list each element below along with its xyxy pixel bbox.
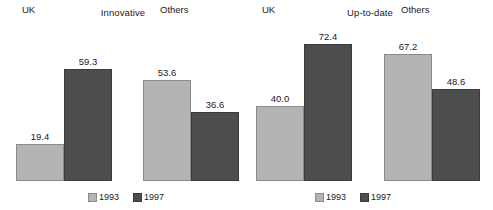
legend-swatch-1997-icon (360, 193, 369, 202)
bar-1993-others-up-to-date[interactable]: 67.2 (384, 54, 432, 181)
panel-title-up-to-date: Up-to-date (247, 7, 493, 18)
chart-panel-up-to-date: Up-to-date UK 40.0 72.4 Others 67.2 4 (247, 0, 493, 210)
bar-value-label: 59.3 (79, 56, 98, 67)
legend-swatch-1997-icon (133, 193, 142, 202)
legend-innovative: 1993 1997 (88, 192, 164, 202)
group-label-uk: UK (22, 4, 35, 15)
panel-title-innovative: Innovative (0, 7, 246, 18)
bar-value-label: 53.6 (158, 67, 177, 78)
legend-entry-1997[interactable]: 1997 (360, 192, 391, 202)
bar-1997-uk-innovative[interactable]: 59.3 (64, 69, 112, 181)
legend-entry-1993[interactable]: 1993 (88, 192, 119, 202)
bar-1997-others-innovative[interactable]: 36.6 (191, 112, 239, 181)
legend-entry-1993[interactable]: 1993 (315, 192, 346, 202)
bar-1993-uk-innovative[interactable]: 19.4 (16, 144, 64, 181)
legend-up-to-date: 1993 1997 (315, 192, 391, 202)
bar-value-label: 67.2 (399, 41, 418, 52)
legend-entry-1997[interactable]: 1997 (133, 192, 164, 202)
legend-swatch-1993-icon (315, 193, 324, 202)
bar-1993-uk-up-to-date[interactable]: 40.0 (256, 106, 304, 182)
bar-value-label: 72.4 (319, 31, 338, 42)
chart-panel-innovative: Innovative UK 19.4 59.3 Others 53.6 3 (0, 0, 246, 210)
bar-value-label: 36.6 (206, 99, 225, 110)
group-label-others: Others (401, 4, 430, 15)
legend-swatch-1993-icon (88, 193, 97, 202)
bars-uk-up-to-date: 40.0 72.4 (256, 30, 352, 181)
bar-value-label: 48.6 (447, 76, 466, 87)
bar-1997-others-up-to-date[interactable]: 48.6 (432, 89, 480, 181)
bars-others-up-to-date: 67.2 48.6 (384, 30, 480, 181)
bars-others-innovative: 53.6 36.6 (143, 30, 239, 181)
group-label-others: Others (160, 4, 189, 15)
legend-label-1993: 1993 (99, 192, 119, 202)
legend-label-1997: 1997 (371, 192, 391, 202)
group-label-uk: UK (262, 4, 275, 15)
legend-label-1993: 1993 (326, 192, 346, 202)
bar-value-label: 40.0 (271, 93, 290, 104)
bar-1993-others-innovative[interactable]: 53.6 (143, 80, 191, 181)
bars-uk-innovative: 19.4 59.3 (16, 30, 112, 181)
bar-value-label: 19.4 (31, 131, 50, 142)
legend-label-1997: 1997 (144, 192, 164, 202)
grouped-bar-chart-figure: Innovative UK 19.4 59.3 Others 53.6 3 (0, 0, 493, 210)
bar-1997-uk-up-to-date[interactable]: 72.4 (304, 44, 352, 181)
